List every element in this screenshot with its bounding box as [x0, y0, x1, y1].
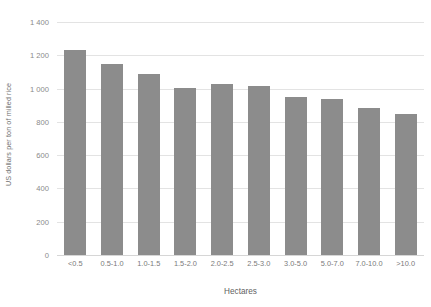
- x-axis-tick-label: 0.5-1.0: [101, 259, 124, 268]
- y-axis-title: US dollars per ton of milled rice: [0, 0, 18, 268]
- x-axis-title: Hectares: [57, 287, 424, 296]
- y-axis-title-text: US dollars per ton of milled rice: [5, 82, 14, 185]
- plot-area: [57, 22, 424, 255]
- bar[interactable]: [395, 114, 417, 255]
- bar[interactable]: [285, 97, 307, 255]
- bar[interactable]: [174, 88, 196, 255]
- gridline: [57, 255, 424, 256]
- x-axis-tick-label: 7.0-10.0: [355, 259, 382, 268]
- bars: [57, 22, 424, 255]
- bar[interactable]: [101, 64, 123, 255]
- y-axis-tick-label: 1 000: [4, 84, 49, 93]
- y-axis-tick-label: 1 400: [4, 18, 49, 27]
- bar[interactable]: [64, 50, 86, 255]
- bar[interactable]: [358, 108, 380, 255]
- y-axis-tick-label: 200: [4, 217, 49, 226]
- x-axis-tick-label: 2.5-3.0: [247, 259, 270, 268]
- x-axis-tick-label: 3.0-5.0: [284, 259, 307, 268]
- x-axis-tick-label: 5.0-7.0: [321, 259, 344, 268]
- bar[interactable]: [138, 74, 160, 255]
- x-axis-tick-label: >10.0: [396, 259, 415, 268]
- y-axis-tick-label: 1 200: [4, 51, 49, 60]
- bar[interactable]: [248, 86, 270, 255]
- bar-chart: US dollars per ton of milled rice 020040…: [0, 0, 431, 307]
- y-axis-tick-label: 800: [4, 117, 49, 126]
- x-axis-tick-label: 1.0-1.5: [137, 259, 160, 268]
- y-axis-tick-label: 400: [4, 184, 49, 193]
- bar[interactable]: [321, 99, 343, 255]
- x-axis-tick-label: <0.5: [68, 259, 83, 268]
- bar[interactable]: [211, 84, 233, 255]
- x-axis-ticks: <0.50.5-1.01.0-1.51.5-2.02.0-2.52.5-3.03…: [57, 259, 424, 275]
- y-axis-tick-label: 600: [4, 151, 49, 160]
- x-axis-tick-label: 2.0-2.5: [211, 259, 234, 268]
- y-axis-tick-label: 0: [4, 251, 49, 260]
- x-axis-tick-label: 1.5-2.0: [174, 259, 197, 268]
